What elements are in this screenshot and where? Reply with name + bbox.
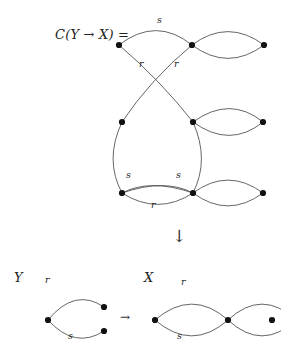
label-top-s: s bbox=[157, 15, 162, 25]
edge-mid-right-lower bbox=[193, 122, 263, 136]
label-source-s: s bbox=[68, 331, 73, 341]
vertex bbox=[225, 317, 231, 323]
label-source-r: r bbox=[45, 275, 50, 285]
source-graph-name: Y bbox=[14, 271, 23, 284]
edge-s-right-down bbox=[193, 122, 202, 193]
source-graph-vertices bbox=[45, 304, 107, 334]
edge-mid-right-upper bbox=[193, 109, 263, 123]
vertex bbox=[260, 190, 266, 196]
vertex bbox=[190, 119, 196, 125]
label-bottom-s-right: s bbox=[176, 170, 181, 180]
vertex bbox=[260, 119, 266, 125]
vertex bbox=[269, 317, 275, 323]
edge-source-s bbox=[48, 320, 104, 338]
horizontal-arrow-icon: → bbox=[120, 311, 130, 323]
graph-canvas bbox=[0, 0, 281, 353]
vertex bbox=[190, 190, 196, 196]
label-bottom-s-left: s bbox=[126, 170, 131, 180]
vertex bbox=[116, 42, 122, 48]
vertical-arrow-icon: ↓ bbox=[172, 228, 186, 245]
source-graph-edges bbox=[48, 299, 104, 338]
edge-bottom-r bbox=[122, 193, 193, 205]
mapping-space-figure: C(Y → X) = bbox=[0, 0, 281, 353]
vertex bbox=[261, 42, 267, 48]
label-top-r-left: r bbox=[139, 59, 144, 69]
vertex bbox=[45, 317, 51, 323]
label-bottom-r: r bbox=[151, 200, 156, 210]
edge-top-right-lower bbox=[192, 45, 264, 59]
edge-bottom-right-lower bbox=[193, 193, 263, 206]
vertex bbox=[152, 317, 158, 323]
big-graph-edges bbox=[113, 31, 264, 207]
vertex bbox=[119, 119, 125, 125]
edge-top-s bbox=[119, 31, 192, 46]
edge-target-r bbox=[155, 304, 228, 320]
label-target-s: s bbox=[177, 331, 182, 341]
edge-top-right-upper bbox=[192, 32, 264, 46]
target-graph-vertices bbox=[152, 317, 275, 323]
vertex bbox=[119, 190, 125, 196]
target-graph-edges bbox=[155, 304, 281, 336]
label-target-r: r bbox=[181, 277, 186, 287]
vertex bbox=[189, 42, 195, 48]
edge-s-left-down bbox=[113, 122, 122, 193]
vertex bbox=[101, 304, 107, 310]
edge-target-s bbox=[155, 320, 228, 336]
edge-bottom-right-upper bbox=[193, 180, 263, 193]
target-graph-name: X bbox=[144, 271, 153, 284]
label-top-r-right: r bbox=[174, 59, 179, 69]
vertex bbox=[101, 328, 107, 334]
edge-source-r bbox=[48, 299, 104, 320]
